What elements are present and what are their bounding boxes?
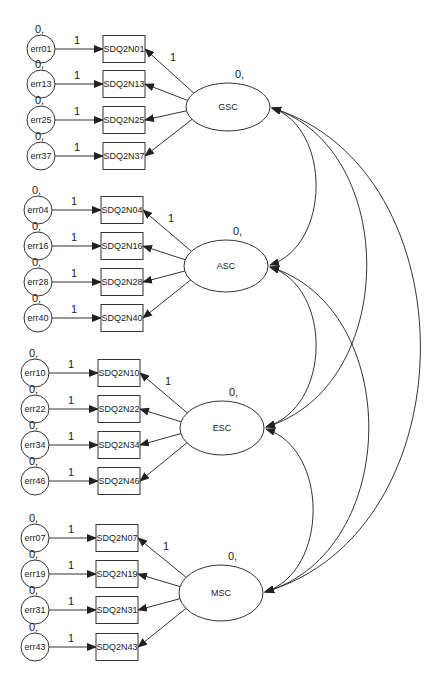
error-path-label: 1 — [71, 231, 77, 243]
covariance-asc-msc — [265, 267, 369, 592]
latent-factor-label: ASC — [217, 261, 236, 271]
error-path-label: 1 — [68, 430, 74, 442]
error-variance-label: 0, — [29, 512, 38, 524]
factor-variance-label: 0, — [235, 68, 244, 80]
error-term-label: err19 — [24, 569, 45, 579]
error-term-label: err28 — [27, 277, 48, 287]
observed-indicator-label: SDQ2N04 — [101, 205, 142, 215]
error-path-label: 1 — [74, 141, 80, 153]
error-path-label: 1 — [74, 105, 80, 117]
error-variance-label: 0, — [29, 455, 38, 467]
observed-indicator-label: SDQ2N10 — [98, 368, 139, 378]
error-variance-label: 0, — [35, 130, 44, 142]
fixed-loading-label: 1 — [168, 212, 174, 224]
error-variance-label: 0, — [35, 94, 44, 106]
error-term-label: err46 — [24, 476, 45, 486]
error-path-label: 1 — [74, 34, 80, 46]
latent-factor-asc: ASC0, — [184, 225, 268, 292]
error-term-label: err22 — [24, 404, 45, 414]
error-variance-label: 0, — [29, 383, 38, 395]
covariance-gsc-asc — [270, 108, 316, 265]
error-variance-label: 0, — [35, 58, 44, 70]
factor-loading-arrow — [138, 574, 181, 587]
error-term-label: err07 — [24, 533, 45, 543]
sem-path-diagram: 1err010,SDQ2N011err130,SDQ2N131err250,SD… — [0, 0, 433, 678]
factor-loading-arrow — [138, 608, 186, 647]
observed-indicator-label: SDQ2N40 — [101, 313, 142, 323]
factor-variance-label: 0, — [229, 386, 238, 398]
factor-loading-arrow — [143, 246, 186, 260]
latent-factor-label: GSC — [218, 102, 238, 112]
fixed-loading-label: 1 — [165, 375, 171, 387]
error-term-label: err43 — [24, 642, 45, 652]
covariance-gsc-esc — [266, 108, 367, 427]
observed-indicator-label: SDQ2N25 — [103, 115, 144, 125]
error-variance-label: 0, — [32, 184, 41, 196]
error-variance-label: 0, — [29, 419, 38, 431]
observed-indicator-label: SDQ2N16 — [101, 241, 142, 251]
error-term-label: err04 — [27, 205, 48, 215]
diagram-nodes: 1err010,SDQ2N011err130,SDQ2N131err250,SD… — [21, 23, 270, 661]
error-variance-label: 0, — [29, 584, 38, 596]
factor-loading-paths — [49, 49, 194, 647]
covariance-gsc-msc — [265, 108, 420, 592]
covariance-asc-esc — [266, 267, 316, 427]
latent-factor-gsc: GSC0, — [186, 68, 270, 131]
latent-factor-label: MSC — [211, 588, 232, 598]
observed-indicator-label: SDQ2N34 — [98, 440, 139, 450]
error-path-label: 1 — [68, 632, 74, 644]
error-term-label: err40 — [27, 313, 48, 323]
group-esc: 1err100,SDQ2N101err220,SDQ2N221err340,SD… — [21, 347, 171, 495]
error-term-label: err37 — [30, 151, 51, 161]
latent-factor-msc: MSC0, — [179, 550, 263, 621]
factor-loading-arrow — [138, 599, 181, 610]
observed-indicator-label: SDQ2N43 — [96, 642, 137, 652]
error-path-label: 1 — [71, 195, 77, 207]
observed-indicator-label: SDQ2N31 — [96, 605, 137, 615]
error-path-label: 1 — [68, 523, 74, 535]
factor-loading-arrow — [145, 119, 193, 156]
observed-indicator-label: SDQ2N28 — [101, 277, 142, 287]
factor-variance-label: 0, — [228, 550, 237, 562]
error-variance-label: 0, — [32, 292, 41, 304]
group-gsc: 1err010,SDQ2N011err130,SDQ2N131err250,SD… — [27, 23, 176, 170]
fixed-loading-label: 1 — [163, 540, 169, 552]
covariance-paths — [265, 108, 420, 592]
factor-loading-arrow — [140, 442, 187, 481]
observed-indicator-label: SDQ2N22 — [98, 404, 139, 414]
factor-loading-arrow — [145, 84, 188, 101]
error-term-label: err10 — [24, 368, 45, 378]
factor-variance-label: 0, — [233, 225, 242, 237]
group-msc: 1err070,SDQ2N071err190,SDQ2N191err310,SD… — [21, 512, 169, 661]
fixed-loading-label: 1 — [170, 51, 176, 63]
error-variance-label: 0, — [29, 548, 38, 560]
error-term-label: err34 — [24, 440, 45, 450]
factor-loading-arrow — [143, 280, 191, 318]
error-variance-label: 0, — [32, 220, 41, 232]
error-variance-label: 0, — [29, 621, 38, 633]
error-variance-label: 0, — [32, 256, 41, 268]
factor-loading-arrow — [145, 111, 187, 120]
error-path-label: 1 — [68, 358, 74, 370]
observed-indicator-label: SDQ2N46 — [98, 476, 139, 486]
error-term-label: err31 — [24, 605, 45, 615]
covariance-esc-msc — [265, 429, 313, 592]
factor-loading-arrow — [140, 433, 182, 445]
observed-indicator-label: SDQ2N13 — [103, 79, 144, 89]
error-path-label: 1 — [68, 466, 74, 478]
latent-factor-esc: ESC0, — [180, 386, 264, 455]
error-path-label: 1 — [68, 394, 74, 406]
group-asc: 1err040,SDQ2N041err160,SDQ2N161err280,SD… — [24, 184, 174, 332]
factor-loading-arrow — [140, 409, 182, 422]
latent-factor-label: ESC — [213, 423, 232, 433]
observed-indicator-label: SDQ2N01 — [103, 44, 144, 54]
error-term-label: err01 — [30, 44, 51, 54]
observed-indicator-label: SDQ2N37 — [103, 151, 144, 161]
observed-indicator-label: SDQ2N19 — [96, 569, 137, 579]
factor-loading-arrow — [140, 373, 188, 413]
error-path-label: 1 — [74, 69, 80, 81]
error-variance-label: 0, — [29, 347, 38, 359]
observed-indicator-label: SDQ2N07 — [96, 533, 137, 543]
error-path-label: 1 — [68, 559, 74, 571]
error-path-label: 1 — [71, 303, 77, 315]
